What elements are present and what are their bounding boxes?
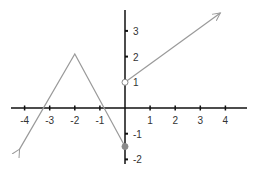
y-tick-label: 3: [133, 26, 139, 37]
open-circle-marker: [122, 79, 128, 85]
x-tick-label: 2: [172, 115, 178, 126]
curve-left-piece: [20, 54, 125, 149]
y-tick-label: -2: [133, 154, 142, 165]
y-tick-label: 1: [133, 77, 139, 88]
curve-right-piece: [125, 13, 220, 82]
x-tick-label: 1: [147, 115, 153, 126]
piecewise-function-graph: -4-3-2-11234 321-1-2: [0, 0, 255, 175]
function-curves: [20, 13, 221, 149]
x-tick-label: -3: [45, 115, 54, 126]
closed-dot-marker: [122, 144, 128, 150]
y-tick-label: -1: [133, 129, 142, 140]
x-tick-label: -1: [95, 115, 104, 126]
x-tick-label: 3: [198, 115, 204, 126]
x-tick-label: -4: [20, 115, 29, 126]
y-tick-label: 2: [133, 52, 139, 63]
x-tick-label: 4: [223, 115, 229, 126]
x-tick-label: -2: [70, 115, 79, 126]
